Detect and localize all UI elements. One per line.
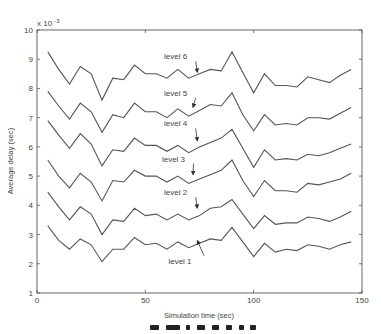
- y-tick-label: 3: [29, 231, 34, 240]
- y-axis: 12345678910: [24, 26, 362, 298]
- series-line-level-4: [48, 121, 351, 168]
- plot-frame: [37, 30, 362, 293]
- x-tick-label: 150: [355, 296, 369, 305]
- y-tick-label: 9: [29, 55, 34, 64]
- y-axis-title: Average delay (sec): [6, 127, 15, 194]
- y-tick-label: 7: [29, 114, 34, 123]
- series-line-level-5: [48, 91, 351, 132]
- y-tick-label: 4: [29, 201, 34, 210]
- arrow-icon: [193, 164, 194, 175]
- x-tick-label: 50: [141, 296, 150, 305]
- arrow-icon: [196, 197, 198, 208]
- series-line-level-6: [48, 52, 351, 100]
- arrow-icon: [196, 61, 198, 72]
- y-tick-label: 8: [29, 84, 34, 93]
- series-label: level 5: [164, 89, 188, 98]
- series-line-level-1: [48, 226, 351, 262]
- series-line-level-2: [48, 192, 351, 234]
- series-label: level 3: [162, 155, 186, 164]
- series-annotations: level 6level 5level 4level 3level 2level…: [162, 52, 204, 266]
- y-tick-label: 2: [29, 260, 34, 269]
- y-tick-label: 6: [29, 143, 34, 152]
- series-label: level 1: [168, 257, 192, 266]
- arrow-icon: [193, 98, 196, 108]
- arrow-icon: [196, 128, 198, 141]
- x-tick-label: 100: [247, 296, 261, 305]
- series-label: level 2: [164, 188, 188, 197]
- series-lines: [48, 52, 351, 262]
- x-axis: 050100150: [35, 30, 369, 305]
- plot-area-border: [37, 30, 362, 293]
- y-tick-label: 10: [24, 26, 33, 35]
- series-line-level-3: [48, 160, 351, 201]
- y-exponent-label: x 10 -3: [37, 18, 60, 28]
- x-tick-label: 0: [35, 296, 40, 305]
- y-tick-label: 1: [29, 289, 34, 298]
- y-tick-label: 5: [29, 172, 34, 181]
- series-label: level 4: [164, 119, 188, 128]
- figure-caption-fragment: [0, 318, 381, 329]
- series-label: level 6: [164, 52, 188, 61]
